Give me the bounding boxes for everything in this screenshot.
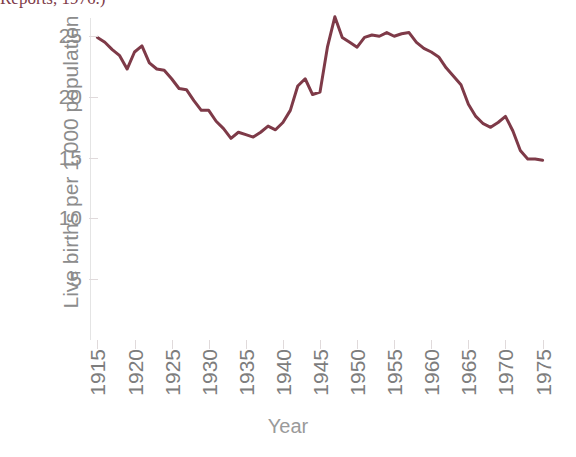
x-tick-label: 1960 <box>420 349 444 396</box>
x-tick-label: 1955 <box>383 349 407 396</box>
x-tick-label: 1930 <box>198 349 222 396</box>
x-tick-mark <box>246 340 247 349</box>
y-tick-mark <box>89 279 98 280</box>
y-tick-mark <box>89 97 98 98</box>
x-tick-label: 1950 <box>346 349 370 396</box>
x-tick-mark <box>505 340 506 349</box>
x-tick-mark <box>320 340 321 349</box>
x-tick-mark <box>468 340 469 349</box>
x-tick-mark <box>357 340 358 349</box>
x-tick-mark <box>97 340 98 349</box>
x-tick-label: 1915 <box>86 349 110 396</box>
x-tick-mark <box>431 340 432 349</box>
x-tick-label: 1975 <box>532 349 556 396</box>
chart-plot-area <box>90 18 550 340</box>
x-tick-mark <box>135 340 136 349</box>
x-tick-mark <box>543 340 544 349</box>
y-tick-mark <box>89 158 98 159</box>
line-series-svg <box>90 18 550 340</box>
x-tick-label: 1970 <box>494 349 518 396</box>
x-tick-mark <box>283 340 284 349</box>
x-tick-label: 1925 <box>161 349 185 396</box>
x-tick-mark <box>209 340 210 349</box>
x-tick-label: 1935 <box>235 349 259 396</box>
x-tick-mark <box>394 340 395 349</box>
truncated-caption: Reports, 1976.) <box>0 0 576 10</box>
caption-text: Reports, 1976.) <box>0 0 576 10</box>
x-tick-label: 1920 <box>124 349 148 396</box>
y-tick-mark <box>89 218 98 219</box>
y-tick-mark <box>89 36 98 37</box>
x-tick-label: 1965 <box>457 349 481 396</box>
x-tick-label: 1945 <box>309 349 333 396</box>
x-tick-mark <box>172 340 173 349</box>
line-series-path <box>97 17 542 160</box>
x-tick-label: 1940 <box>272 349 296 396</box>
x-axis-label: Year <box>0 415 576 438</box>
y-axis-label: Live births per 1,000 population <box>59 0 83 327</box>
